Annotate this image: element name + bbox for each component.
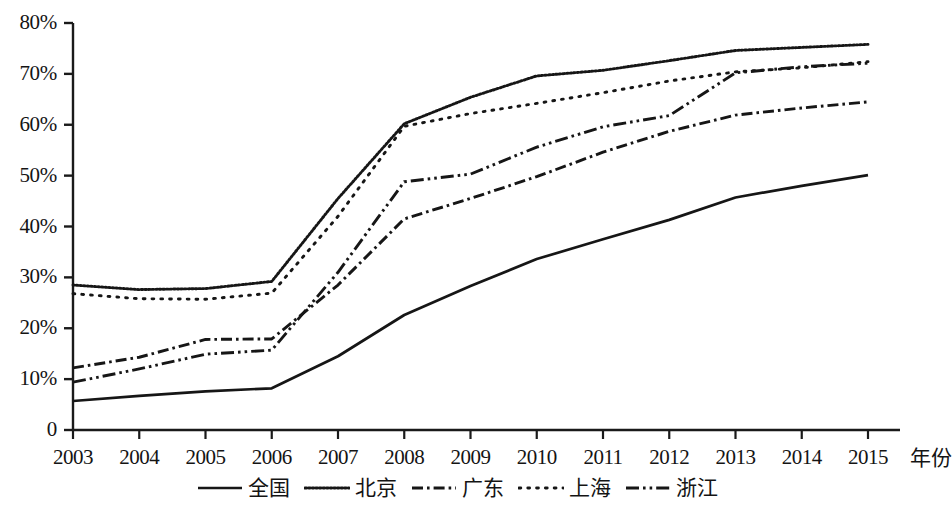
legend-label: 广东: [462, 477, 504, 498]
series-line-浙江: [73, 63, 868, 382]
y-axis-tick-label: 40%: [19, 216, 57, 237]
y-axis-tick-label: 0: [47, 419, 57, 440]
x-axis-tick-label: 2012: [636, 447, 702, 468]
legend-label: 北京: [355, 477, 397, 498]
legend-swatch-dash-dot-dot-icon: [625, 481, 671, 495]
x-axis-tick-label: 2015: [835, 447, 901, 468]
legend-swatch-solid-icon: [197, 481, 243, 495]
x-axis-tick-label: 2008: [371, 447, 437, 468]
x-axis-tick-label: 2009: [438, 447, 504, 468]
x-axis-tick-label: 2010: [504, 447, 570, 468]
x-axis-tick-label: 2005: [173, 447, 239, 468]
series-line-北京: [73, 44, 868, 289]
legend-item-全国: 全国: [197, 477, 290, 498]
y-axis-tick-label: 60%: [19, 114, 57, 135]
legend-label: 浙江: [676, 477, 718, 498]
x-axis-tick-label: 2011: [570, 447, 636, 468]
x-axis-tick-label: 2007: [305, 447, 371, 468]
y-axis-tick-label: 30%: [19, 266, 57, 287]
legend-item-浙江: 浙江: [625, 477, 718, 498]
legend-item-广东: 广东: [411, 477, 504, 498]
x-axis-title: 年份: [910, 447, 952, 468]
x-axis-tick-label: 2014: [769, 447, 835, 468]
legend-label: 上海: [569, 477, 611, 498]
y-axis-tick-label: 50%: [19, 165, 57, 186]
y-axis-tick-label: 80%: [19, 12, 57, 33]
legend-item-北京: 北京: [304, 477, 397, 498]
legend-label: 全国: [248, 477, 290, 498]
legend-swatch-fine-dotted-icon: [304, 481, 350, 495]
legend-swatch-sparse-dotted-icon: [518, 481, 564, 495]
x-axis-tick-label: 2006: [239, 447, 305, 468]
y-axis-tick-label: 10%: [19, 368, 57, 389]
y-axis-tick-label: 20%: [19, 317, 57, 338]
legend-swatch-dash-dot-icon: [411, 481, 457, 495]
chart-legend: 全国北京广东上海浙江: [0, 477, 929, 498]
legend-item-上海: 上海: [518, 477, 611, 498]
y-axis-tick-label: 70%: [19, 63, 57, 84]
series-line-广东: [73, 102, 868, 368]
x-axis-tick-label: 2013: [703, 447, 769, 468]
x-axis-tick-label: 2003: [40, 447, 106, 468]
x-axis-tick-label: 2004: [106, 447, 172, 468]
